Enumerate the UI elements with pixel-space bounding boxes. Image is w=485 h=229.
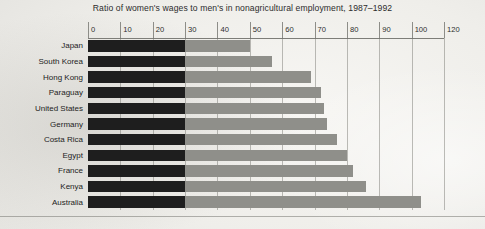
bar-japan xyxy=(88,40,250,52)
bar-row xyxy=(88,71,444,83)
bar-paraguay xyxy=(88,87,321,99)
axis-tick-90: 90 xyxy=(379,22,390,38)
bar-dark-segment xyxy=(88,71,185,83)
category-label-australia: Australia xyxy=(52,197,83,208)
chart-title: Ratio of women's wages to men's in nonag… xyxy=(0,3,485,13)
bar-united-states xyxy=(88,103,324,115)
axis-tick-100: 100 xyxy=(412,22,428,38)
axis-tick-20: 20 xyxy=(153,22,164,38)
axis-tick-30: 30 xyxy=(185,22,196,38)
bar-dark-segment xyxy=(88,181,185,193)
bar-hong-kong xyxy=(88,71,311,83)
bar-dark-segment xyxy=(88,118,185,130)
category-label-costa-rica: Costa Rica xyxy=(44,134,83,145)
bar-south-korea xyxy=(88,56,272,68)
chart-page: Ratio of women's wages to men's in nonag… xyxy=(0,0,485,229)
category-label-hong-kong: Hong Kong xyxy=(43,72,83,83)
category-label-egypt: Egypt xyxy=(63,150,83,161)
axis-tick-40: 40 xyxy=(217,22,228,38)
axis-tick-80: 80 xyxy=(347,22,358,38)
axis-tick-50: 50 xyxy=(250,22,261,38)
gridline-120 xyxy=(444,38,445,210)
bar-costa-rica xyxy=(88,134,337,146)
bar-egypt xyxy=(88,150,347,162)
bar-dark-segment xyxy=(88,134,185,146)
bar-dark-segment xyxy=(88,40,185,52)
bar-row xyxy=(88,181,444,193)
bar-dark-segment xyxy=(88,56,185,68)
category-label-paraguay: Paraguay xyxy=(49,87,83,98)
bar-dark-segment xyxy=(88,103,185,115)
bar-france xyxy=(88,165,353,177)
axis-tick-120: 120 xyxy=(444,22,460,38)
category-label-united-states: United States xyxy=(35,103,83,114)
bar-row xyxy=(88,103,444,115)
value-axis: 0102030405060708090100120 xyxy=(88,22,444,39)
axis-tick-0: 0 xyxy=(88,22,95,38)
bar-row xyxy=(88,150,444,162)
bar-dark-segment xyxy=(88,196,185,208)
axis-tick-60: 60 xyxy=(282,22,293,38)
bar-germany xyxy=(88,118,327,130)
category-label-germany: Germany xyxy=(50,119,83,130)
bar-row xyxy=(88,118,444,130)
category-axis-labels: JapanSouth KoreaHong KongParaguayUnited … xyxy=(0,38,83,210)
category-label-japan: Japan xyxy=(61,40,83,51)
axis-tick-70: 70 xyxy=(315,22,326,38)
category-label-france: France xyxy=(58,165,83,176)
bar-australia xyxy=(88,196,421,208)
bar-kenya xyxy=(88,181,366,193)
axis-tick-10: 10 xyxy=(120,22,131,38)
bar-row xyxy=(88,40,444,52)
category-label-kenya: Kenya xyxy=(60,181,83,192)
category-label-south-korea: South Korea xyxy=(39,56,83,67)
bar-row xyxy=(88,56,444,68)
plot-area: 0102030405060708090100120 xyxy=(88,22,444,210)
bar-dark-segment xyxy=(88,87,185,99)
bar-series xyxy=(88,38,444,210)
bar-dark-segment xyxy=(88,150,185,162)
bar-dark-segment xyxy=(88,165,185,177)
bar-row xyxy=(88,196,444,208)
bar-row xyxy=(88,87,444,99)
bar-row xyxy=(88,165,444,177)
bar-row xyxy=(88,134,444,146)
bottom-rule xyxy=(0,216,485,217)
